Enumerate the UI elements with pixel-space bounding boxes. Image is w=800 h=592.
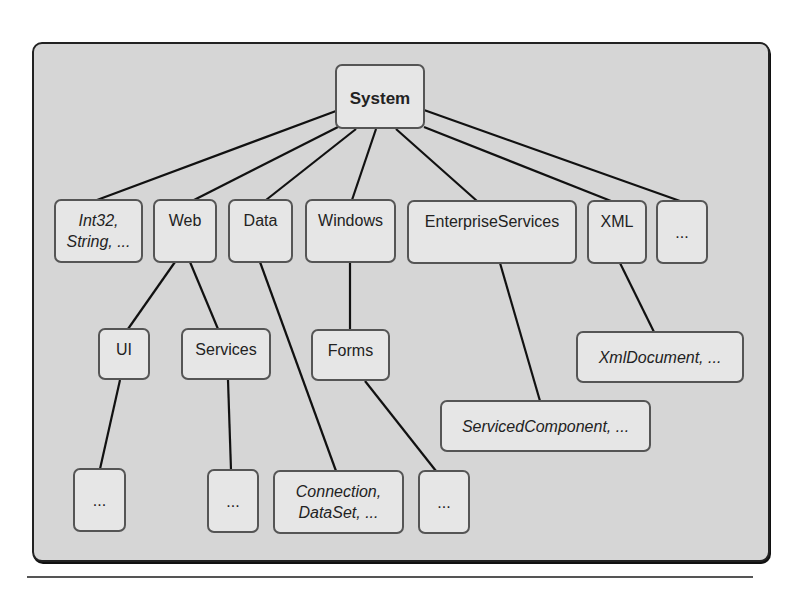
bottom-rule (27, 576, 753, 578)
node-servicedcomponent: ServicedComponent, ... (440, 400, 651, 452)
node-xmldocument: XmlDocument, ... (576, 331, 744, 383)
node-services: Services (181, 328, 271, 380)
node-xml: XML (587, 200, 647, 264)
node-data: Data (228, 199, 293, 263)
node-forms-more: ... (418, 470, 470, 534)
node-system: System (335, 64, 425, 129)
node-connection-dataset: Connection, DataSet, ... (273, 470, 404, 534)
node-more-top: ... (656, 200, 708, 264)
node-services-more: ... (207, 469, 259, 533)
node-ui: UI (98, 328, 150, 380)
node-enterprise-services: EnterpriseServices (407, 200, 577, 264)
node-forms: Forms (311, 329, 390, 381)
node-windows: Windows (305, 199, 396, 263)
node-int32-string: Int32, String, ... (54, 199, 143, 263)
node-web: Web (153, 199, 217, 263)
node-ui-more: ... (73, 468, 126, 532)
